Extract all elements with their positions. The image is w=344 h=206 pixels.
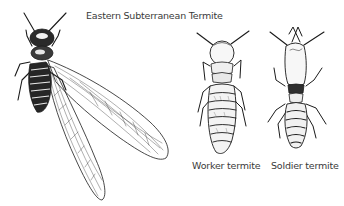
soldier-termite-label: Soldier termite: [271, 160, 339, 171]
worker-termite-label: Worker termite: [192, 160, 260, 171]
soldier-termite-drawing: [268, 27, 326, 148]
worker-termite-drawing: [197, 31, 249, 154]
termite-illustration: Eastern Subterranean Termite Worker term…: [0, 0, 344, 206]
illustration-canvas: [0, 0, 344, 206]
winged-termite-drawing: [15, 13, 168, 200]
figure-title: Eastern Subterranean Termite: [86, 10, 223, 21]
wing-lower: [46, 66, 105, 200]
wing-upper: [48, 60, 168, 159]
